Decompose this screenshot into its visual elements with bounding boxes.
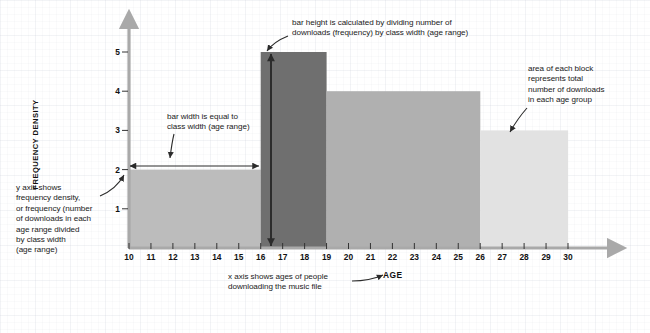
leader-area xyxy=(510,108,527,132)
x-tick-label-20: 20 xyxy=(340,252,358,262)
bar-19-26 xyxy=(327,91,481,248)
bar-group xyxy=(129,52,568,248)
x-tick-label-18: 18 xyxy=(296,252,314,262)
x-tick-label-16: 16 xyxy=(252,252,270,262)
annotation-bar-height: bar height is calculated by dividing num… xyxy=(292,18,542,39)
x-tick-label-11: 11 xyxy=(142,252,160,262)
x-tick-label-29: 29 xyxy=(537,252,555,262)
x-tick-label-21: 21 xyxy=(361,252,379,262)
annotation-x-axis: x axis shows ages of people downloading … xyxy=(228,272,388,293)
y-tick-label-3: 3 xyxy=(104,125,120,135)
leader-bar-width xyxy=(170,134,174,158)
x-tick-label-26: 26 xyxy=(471,252,489,262)
x-tick-marks xyxy=(129,243,568,249)
leader-bar-height xyxy=(267,36,288,51)
annotation-area-of-block: area of each block represents total numb… xyxy=(528,64,648,106)
x-tick-label-17: 17 xyxy=(274,252,292,262)
x-tick-label-23: 23 xyxy=(405,252,423,262)
bar-26-30 xyxy=(480,130,568,248)
annotation-y-axis: y axis shows frequency density, or frequ… xyxy=(16,183,124,256)
y-tick-label-2: 2 xyxy=(104,165,120,175)
annotation-bar-width: bar width is equal to class width (age r… xyxy=(167,112,297,133)
y-tick-label-5: 5 xyxy=(104,47,120,57)
x-tick-label-14: 14 xyxy=(208,252,226,262)
bar-10-16 xyxy=(129,170,261,248)
x-tick-label-28: 28 xyxy=(515,252,533,262)
y-tick-label-4: 4 xyxy=(104,86,120,96)
x-tick-label-22: 22 xyxy=(383,252,401,262)
x-tick-label-30: 30 xyxy=(559,252,577,262)
x-tick-label-13: 13 xyxy=(186,252,204,262)
x-tick-label-19: 19 xyxy=(318,252,336,262)
x-tick-label-12: 12 xyxy=(164,252,182,262)
x-tick-label-25: 25 xyxy=(449,252,467,262)
x-tick-label-15: 15 xyxy=(230,252,248,262)
x-tick-label-24: 24 xyxy=(427,252,445,262)
x-tick-label-27: 27 xyxy=(493,252,511,262)
